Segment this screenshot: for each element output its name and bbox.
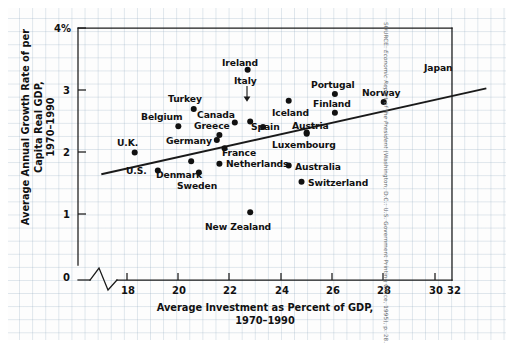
point-label-italy: Italy	[234, 76, 257, 85]
y-tick-label-3: 3	[63, 85, 70, 96]
point-label-portugal: Portugal	[311, 80, 355, 89]
data-point-norway	[332, 91, 338, 97]
point-label-luxembourg: Luxembourg	[272, 140, 336, 149]
y-axis-ticks	[78, 28, 86, 214]
data-point-uk	[132, 150, 138, 156]
data-point-netherlands	[216, 161, 222, 167]
y-axis-title-line2: 1970–1990	[45, 97, 56, 156]
x-tick-label-20: 20	[172, 285, 186, 296]
point-label-us: U.S.	[126, 166, 147, 175]
y-tick-label-2: 2	[63, 147, 70, 158]
point-label-belgium: Belgium	[141, 112, 183, 121]
y-tick-label-0: 0	[63, 272, 70, 283]
point-label-sweden: Sweden	[177, 181, 217, 190]
x-axis-title-line2: 1970–1990	[235, 315, 294, 326]
x-tick-label-24: 24	[275, 285, 289, 296]
point-label-france: France	[222, 148, 256, 157]
point-label-greece: Greece	[194, 121, 230, 130]
trend-line	[101, 88, 486, 174]
source-prefix: SOURCE:	[383, 22, 389, 48]
point-label-japan: Japan	[424, 63, 452, 72]
point-label-spain: Spain	[251, 122, 280, 131]
y-tick-label-1: 1	[63, 209, 70, 220]
point-label-iceland: Iceland	[272, 108, 309, 117]
data-point-canada	[232, 120, 238, 126]
point-label-netherlands: Netherlands	[226, 159, 288, 168]
italy-callout-arrow	[244, 86, 251, 102]
point-label-uk: U.K.	[117, 138, 138, 147]
source-title: Economic Report of the President	[383, 50, 389, 149]
point-label-ireland: Ireland	[222, 58, 258, 67]
point-label-switzerland: Switzerland	[308, 178, 368, 187]
data-point-greece	[216, 132, 222, 138]
x-tick-label-30: 30	[429, 285, 443, 296]
data-point-new-zealand	[247, 209, 253, 215]
data-point-denmark	[188, 158, 194, 164]
point-label-canada: Canada	[197, 110, 235, 119]
y-axis-title: Average Annual Growth Rate of per Capita…	[20, 27, 58, 227]
data-point-finland	[299, 179, 305, 185]
point-label-finland: Finland	[313, 99, 351, 108]
x-tick-label-18: 18	[121, 285, 135, 296]
x-axis-title-line1: Average Investment as Percent of GDP,	[157, 302, 374, 313]
x-tick-label-32: 32	[447, 285, 461, 296]
data-point-portugal	[332, 110, 338, 116]
x-tick-label-22: 22	[223, 285, 237, 296]
point-label-germany: Germany	[166, 136, 212, 145]
x-tick-label-26: 26	[326, 285, 340, 296]
x-axis-break-zigzag	[90, 268, 117, 290]
point-label-denmark: Denmark	[156, 170, 202, 179]
y-axis-title-line1: Average Annual Growth Rate of per Capita…	[20, 29, 44, 225]
point-label-austria: Austria	[292, 121, 329, 130]
x-axis-title: Average Investment as Percent of GDP, 19…	[150, 302, 380, 327]
data-point-iceland	[286, 98, 292, 104]
data-point-belgium	[175, 123, 181, 129]
point-label-new-zealand: New Zealand	[205, 222, 271, 231]
point-label-turkey: Turkey	[168, 94, 202, 103]
figure-scatter-investment-vs-growth: 4% 3 2 1 0 18 20 22 24 26 28 30 32 Avera…	[0, 0, 514, 348]
data-point-turkey	[191, 106, 197, 112]
point-label-australia: Australia	[295, 162, 341, 171]
source-note: SOURCE: Economic Report of the President…	[382, 22, 390, 322]
source-suffix: (Washington, D.C.: U.S. Government Print…	[383, 151, 389, 344]
